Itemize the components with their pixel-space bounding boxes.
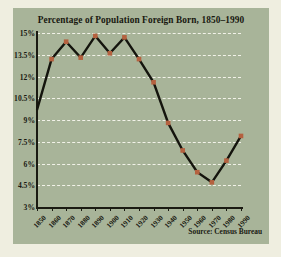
data-point-marker	[122, 35, 127, 40]
data-point-marker	[210, 180, 215, 185]
data-point-marker	[64, 39, 69, 44]
x-axis-tick	[168, 207, 169, 211]
data-point-marker	[180, 148, 185, 153]
data-point-marker	[93, 34, 98, 39]
x-axis-tick	[139, 207, 140, 211]
x-axis-tick	[95, 207, 96, 211]
x-axis-tick	[226, 207, 227, 211]
x-axis-tick	[110, 207, 111, 211]
data-point-marker	[49, 57, 54, 62]
chart-figure: Percentage of Population Foreign Born, 1…	[0, 0, 281, 257]
data-point-marker	[108, 51, 113, 56]
x-axis-tick	[37, 207, 38, 211]
x-axis-tick	[154, 207, 155, 211]
x-axis-tick	[212, 207, 213, 211]
data-point-marker	[166, 121, 171, 126]
x-axis-tick	[197, 207, 198, 211]
data-point-marker	[78, 55, 83, 60]
x-axis-tick	[66, 207, 67, 211]
data-point-marker	[151, 80, 156, 85]
x-axis-tick	[124, 207, 125, 211]
x-axis-tick	[183, 207, 184, 211]
chart-panel: Percentage of Population Foreign Born, 1…	[13, 8, 269, 244]
x-axis-tick	[81, 207, 82, 211]
data-point-marker	[195, 170, 200, 175]
x-axis-tick	[52, 207, 53, 211]
data-point-marker	[137, 57, 142, 62]
data-point-marker	[224, 158, 229, 163]
x-axis-tick	[241, 207, 242, 211]
data-point-marker	[239, 134, 244, 139]
